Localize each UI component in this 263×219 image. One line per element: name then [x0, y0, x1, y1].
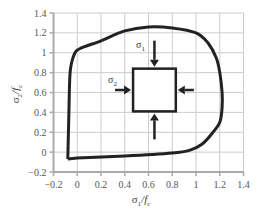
y-tick-label: 1.4 [34, 8, 47, 19]
y-tick-label: 1 [42, 47, 47, 58]
y-tick-label: 0.6 [34, 87, 47, 98]
x-tick-labels: −0.200.20.40.60.811.21.4 [44, 179, 249, 190]
y-tick-label: 1.2 [34, 27, 47, 38]
stress-element: σ1 σ2 [108, 39, 194, 139]
left-arrow-icon [115, 86, 131, 95]
sigma2-label: σ2 [108, 74, 117, 88]
x-tick-label: 0.6 [142, 179, 155, 190]
x-tick-label: 1 [194, 179, 199, 190]
y-tick-label: 0.8 [34, 67, 47, 78]
y-axis-label: σ2/fc [9, 84, 24, 104]
bottom-arrow-icon [150, 113, 159, 139]
right-arrow-icon [178, 86, 194, 95]
top-arrow-icon [150, 41, 159, 67]
y-tick-label: 0.4 [34, 107, 47, 118]
failure-envelope-chart: −0.200.20.40.60.811.21.4 −0.200.20.40.60… [0, 0, 263, 219]
x-tick-label: 1.2 [214, 179, 227, 190]
x-tick-label: 0.4 [119, 179, 132, 190]
y-tick-label: 0 [42, 147, 47, 158]
x-tick-label: −0.2 [44, 179, 62, 190]
y-tick-label: 0.2 [34, 127, 47, 138]
sigma1-label: σ1 [136, 39, 145, 53]
x-tick-label: 1.4 [237, 179, 250, 190]
x-tick-label: 0.2 [95, 179, 108, 190]
x-axis-label: σ1/fc [132, 193, 152, 208]
x-tick-label: 0.8 [166, 179, 179, 190]
y-tick-labels: −0.200.20.40.60.811.21.4 [28, 8, 46, 178]
element-square [133, 69, 176, 112]
y-tick-label: −0.2 [28, 167, 46, 178]
x-tick-label: 0 [75, 179, 80, 190]
